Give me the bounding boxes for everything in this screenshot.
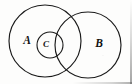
set-circle-b [55,12,121,78]
set-label-c: C [43,39,50,49]
venn-diagram-figure: A C B [0,0,132,84]
set-label-b: B [94,37,103,49]
set-label-a: A [22,34,31,46]
set-circle-c [37,32,63,58]
venn-diagram-canvas: A C B [0,0,132,84]
